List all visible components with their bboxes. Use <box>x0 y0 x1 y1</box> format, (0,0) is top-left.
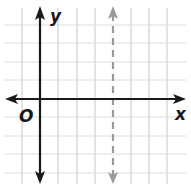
dashed-line-x-equals-4 <box>108 6 118 184</box>
y-axis <box>35 6 45 184</box>
x-axis-label: x <box>174 104 187 124</box>
y-axis-label: y <box>50 6 62 26</box>
origin-label: O <box>19 106 33 126</box>
coordinate-plane: y x O <box>0 0 191 184</box>
grid-vertical-lines <box>22 8 167 184</box>
